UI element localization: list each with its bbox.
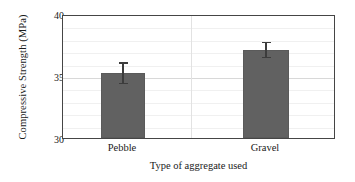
y-tick-label-40: 40 — [24, 10, 64, 21]
bar-gravel[interactable] — [243, 50, 289, 138]
error-bar-pebble — [101, 62, 145, 84]
y-tick-label-30: 30 — [24, 134, 64, 145]
y-tick-label-35: 35 — [24, 72, 64, 83]
x-tick-label-gravel: Gravel — [205, 142, 325, 153]
error-bar-cap-bottom — [119, 83, 128, 84]
error-bar-gravel — [243, 42, 289, 58]
bar-chart-figure: Compressive Strength (MPa) 40 35 30 — [0, 0, 355, 182]
x-tick-label-pebble: Pebble — [62, 142, 182, 153]
gridline-minor-38 — [63, 41, 334, 42]
gridline-minor-37 — [63, 53, 334, 54]
plot-area — [62, 15, 335, 139]
x-axis-title: Type of aggregate used — [62, 160, 335, 171]
error-bar-cap-bottom — [262, 57, 271, 58]
error-bar-cap-top — [262, 42, 271, 43]
error-bar-stem — [122, 62, 123, 84]
gridline-category-separator — [191, 16, 192, 138]
error-bar-stem — [265, 42, 266, 58]
gridline-minor-39 — [63, 28, 334, 29]
error-bar-cap-top — [119, 62, 128, 63]
